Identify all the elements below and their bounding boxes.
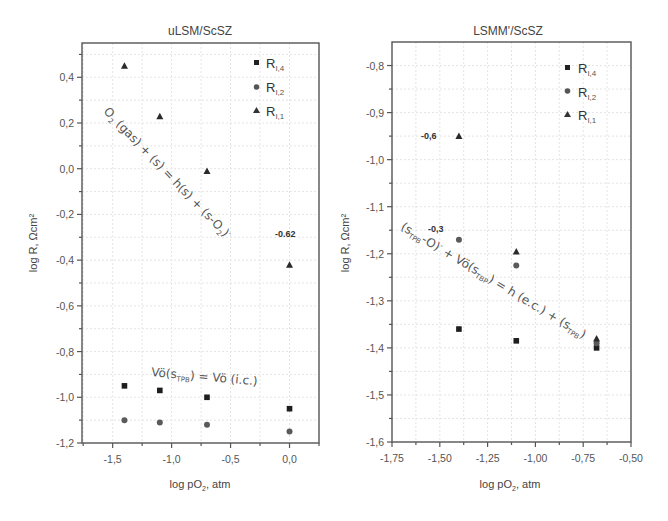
y-tick-label: -0,6: [56, 300, 74, 312]
legend-square-marker: [565, 65, 570, 70]
data-point-triangle: [513, 248, 520, 255]
right-data-points: [455, 133, 600, 351]
data-point-circle: [204, 422, 210, 428]
x-tick-label: -1,50: [428, 452, 452, 464]
y-tick-label: -1,5: [366, 389, 384, 401]
data-point-circle: [287, 429, 293, 435]
left-reaction-annotation: O2 (gas) + (s) = h(s) + (s-O2)-: [99, 104, 234, 243]
legend-square-marker: [254, 60, 259, 65]
y-tick-label: -1,6: [366, 436, 384, 448]
x-tick-label: -1,5: [104, 453, 122, 465]
data-point-square: [287, 406, 293, 412]
y-tick-label: -0,4: [56, 254, 74, 266]
data-point-triangle: [203, 168, 210, 175]
left-slope-label: -0.62: [275, 229, 296, 239]
y-tick-label: -1,2: [56, 437, 74, 449]
left-chart: uLSM/ScSZ -1,5-1,0-0,50,00,40,20,0-0,2-0…: [27, 24, 319, 492]
right-axis-ticks: -1,75-1,50-1,25-1,00-0,75-0,50-0,8-0,9-1…: [366, 60, 643, 464]
y-tick-label: -0,9: [366, 107, 384, 119]
data-point-square: [204, 394, 210, 400]
y-tick-label: -1,4: [366, 342, 384, 354]
y-tick-label: -0,8: [366, 60, 384, 72]
right-slope-label-1: -0,6: [421, 131, 437, 141]
left-legend: RI,4 RI,2 RI,1: [253, 56, 285, 121]
x-tick-label: -0,5: [222, 453, 240, 465]
legend-triangle-marker: [564, 111, 571, 117]
y-tick-label: -0,8: [56, 346, 74, 358]
data-point-triangle: [593, 335, 600, 342]
right-y-axis-label: log R, Ωcm²: [339, 213, 351, 272]
data-point-triangle: [286, 261, 293, 268]
y-tick-label: -1,0: [56, 391, 74, 403]
x-tick-label: -1,25: [476, 452, 500, 464]
y-tick-label: -1,2: [366, 248, 384, 260]
left-y-axis-label: log R, Ωcm²: [27, 213, 39, 272]
legend-circle-marker: [254, 84, 260, 90]
right-chart-title: LSMM'/ScSZ: [473, 24, 543, 38]
x-tick-label: -1,0: [163, 453, 181, 465]
y-tick-label: 0,4: [59, 71, 74, 83]
right-x-axis-label: log pO2, atm: [480, 478, 541, 492]
data-point-triangle: [156, 113, 163, 120]
x-tick-label: -1,75: [380, 452, 404, 464]
data-point-circle: [513, 263, 519, 269]
y-tick-label: -0,2: [56, 208, 74, 220]
legend-label-r14: RI,4: [578, 61, 597, 78]
data-point-square: [157, 388, 163, 394]
right-legend: RI,4 RI,2 RI,1: [564, 61, 597, 125]
x-tick-label: -0,50: [619, 452, 643, 464]
legend-label-r14: RI,4: [266, 56, 285, 73]
data-point-square: [513, 338, 519, 344]
x-tick-label: 0,0: [282, 453, 297, 465]
legend-circle-marker: [565, 88, 571, 94]
legend-triangle-marker: [253, 107, 260, 113]
x-tick-label: -0,75: [571, 452, 595, 464]
y-tick-label: 0,0: [59, 163, 74, 175]
legend-label-r12: RI,2: [578, 85, 597, 102]
data-point-triangle: [121, 62, 128, 68]
data-point-circle: [121, 417, 127, 423]
legend-label-r11: RI,1: [578, 108, 597, 125]
data-point-circle: [456, 237, 462, 243]
left-x-axis-label: log pO2, atm: [170, 478, 231, 492]
left-vacancy-annotation: Vö(sTPB) = Vö (i.c.): [151, 365, 259, 390]
legend-label-r11: RI,1: [266, 104, 285, 121]
y-tick-label: 0,2: [59, 117, 74, 129]
legend-label-r12: RI,2: [266, 80, 285, 97]
right-slope-label-2: -0,3: [428, 224, 444, 234]
x-tick-label: -1,00: [523, 452, 547, 464]
data-point-circle: [157, 419, 163, 425]
chart-canvas: uLSM/ScSZ -1,5-1,0-0,50,00,40,20,0-0,2-0…: [0, 0, 668, 521]
data-point-square: [122, 383, 128, 389]
left-chart-title: uLSM/ScSZ: [168, 24, 232, 38]
right-chart: LSMM'/ScSZ -1,75-1,50-1,25-1,00-0,75-0,5…: [339, 24, 643, 492]
y-tick-label: -1,1: [366, 201, 384, 213]
data-point-square: [456, 326, 462, 332]
y-tick-label: -1,0: [366, 154, 384, 166]
y-tick-label: -1,3: [366, 295, 384, 307]
